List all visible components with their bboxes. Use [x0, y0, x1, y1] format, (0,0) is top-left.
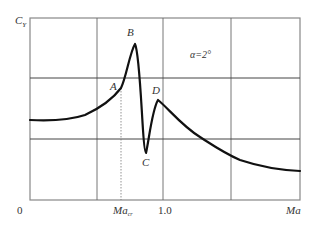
y-axis-label: CY — [15, 14, 27, 29]
cy-curve — [30, 44, 300, 171]
x-tick-zero: 0 — [17, 204, 23, 216]
x-tick-one: 1.0 — [158, 204, 172, 216]
point-label-c: C — [142, 156, 150, 168]
x-tick-ma-cr: Macr — [112, 204, 133, 217]
plot-frame — [30, 18, 300, 200]
lift-coefficient-chart: A B C D α=2° CY 0 Macr 1.0 Ma — [0, 0, 317, 226]
point-label-b: B — [127, 26, 134, 38]
point-label-d: D — [151, 84, 160, 96]
point-label-a: A — [109, 80, 117, 92]
x-axis-label: Ma — [285, 204, 301, 216]
alpha-annotation: α=2° — [190, 49, 211, 60]
